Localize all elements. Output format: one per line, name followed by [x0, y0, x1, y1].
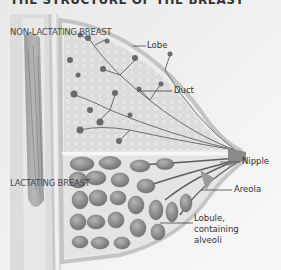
- breast-structure-diagram: THE STRUCTURE OF THE BREAST NON-LACTATIN…: [0, 0, 281, 270]
- lactating-label: LACTATING BREAST: [10, 178, 90, 188]
- breast-illustration: [0, 0, 281, 270]
- section-divider: [62, 152, 242, 155]
- non-lactating-label: NON-LACTATING BREAST: [10, 27, 112, 37]
- lobule-label: Lobule, containing alveoli: [194, 213, 239, 246]
- duct-label: Duct: [174, 85, 194, 96]
- lobule-label-line1: Lobule,: [194, 213, 239, 224]
- lobule-label-line3: alveoli: [194, 235, 239, 246]
- diagram-title: THE STRUCTURE OF THE BREAST: [10, 0, 244, 7]
- nipple-label: Nipple: [242, 156, 269, 167]
- lobule-label-line2: containing: [194, 224, 239, 235]
- areola-label: Areola: [234, 184, 261, 195]
- lobe-label: Lobe: [147, 40, 167, 51]
